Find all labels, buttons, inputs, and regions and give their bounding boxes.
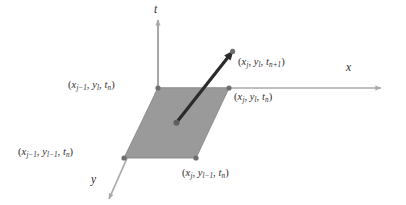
point-label-bottom-right-corner: (xj, yl−1, tn) bbox=[182, 168, 229, 179]
t-axis-label: t bbox=[154, 4, 157, 16]
arrow-tip-dot bbox=[230, 49, 235, 54]
point-label-top-right-future: (xj, yl, tn+1) bbox=[238, 57, 285, 68]
point-label-top-right-corner: (xj, yl, tn) bbox=[234, 92, 272, 103]
vertex-dot-bottom-left bbox=[121, 155, 126, 160]
figure-canvas: t x y (xj, yl, tn+1) (xj−1, yl, tn) (xj,… bbox=[0, 0, 406, 205]
x-axis-label: x bbox=[346, 62, 351, 74]
point-label-top-left-corner: (xj−1, yl, tn) bbox=[68, 80, 115, 91]
vertex-dot-bottom-right bbox=[193, 155, 198, 160]
y-axis-label: y bbox=[91, 174, 96, 186]
arrow-tail-dot bbox=[174, 120, 180, 126]
vertex-dot-top-right bbox=[226, 85, 231, 90]
vertex-dot-top-left bbox=[155, 85, 160, 90]
point-label-bottom-left-corner: (xj−1, yl−1, tn) bbox=[18, 147, 73, 158]
